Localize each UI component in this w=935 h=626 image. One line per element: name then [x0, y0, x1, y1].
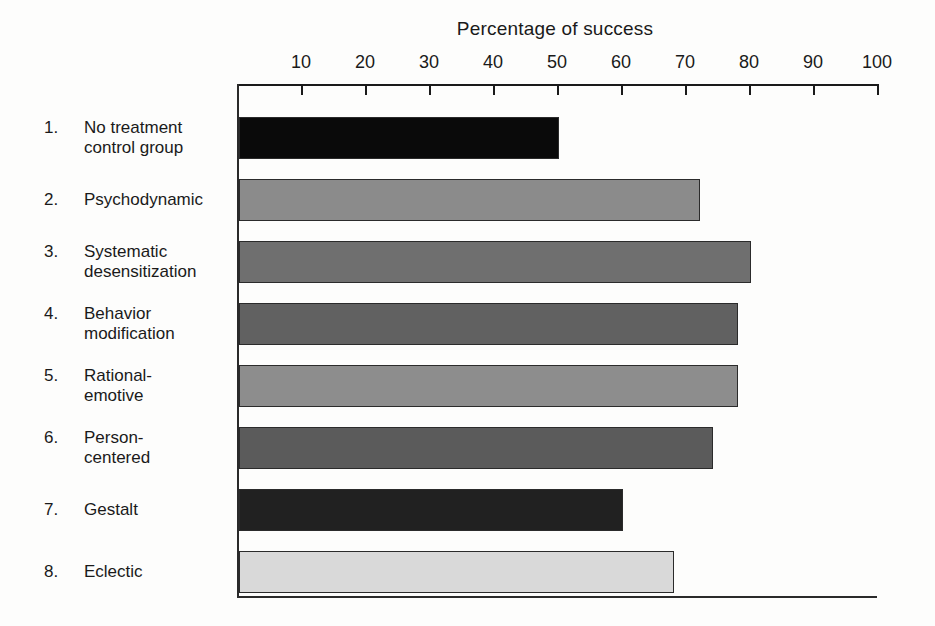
bar-row-label-line1: Rational- [84, 366, 234, 386]
x-axis: 102030405060708090100 [237, 52, 877, 92]
bar-row-label-line2: desensitization [84, 262, 234, 282]
bar-row-index: 2. [44, 190, 72, 210]
bar-row-label: 2.Psychodynamic [44, 190, 234, 210]
x-axis-tick-mark-30 [429, 84, 431, 95]
x-axis-tick-mark-10 [301, 84, 303, 95]
bar-2 [239, 179, 700, 221]
bar-8 [239, 551, 674, 593]
x-axis-tick-mark-20 [365, 84, 367, 95]
bar-3 [239, 241, 751, 283]
bar-1 [239, 117, 559, 159]
x-axis-tick-label-20: 20 [355, 52, 375, 73]
bar-row-label: 4.Behaviormodification [44, 304, 234, 344]
x-axis-tick-label-80: 80 [739, 52, 759, 73]
x-axis-tick-label-70: 70 [675, 52, 695, 73]
chart-title: Percentage of success [400, 18, 710, 40]
x-axis-tick-mark-60 [621, 84, 623, 95]
bar-row-index: 1. [44, 118, 72, 138]
bar-row-label-line1: No treatment [84, 118, 234, 138]
bar-row-label: 8.Eclectic [44, 562, 234, 582]
bar-row: 7.Gestalt [0, 489, 935, 531]
x-axis-tick-label-100: 100 [862, 52, 892, 73]
bar-row: 4.Behaviormodification [0, 303, 935, 345]
bar-row-label-line1: Eclectic [84, 562, 234, 582]
bar-row-label-line2: emotive [84, 386, 234, 406]
bar-row: 2.Psychodynamic [0, 179, 935, 221]
bar-6 [239, 427, 713, 469]
bar-row-label-line2: modification [84, 324, 234, 344]
x-axis-tick-mark-90 [813, 84, 815, 95]
plot-bottom-rule [237, 596, 877, 598]
bar-7 [239, 489, 623, 531]
bar-4 [239, 303, 738, 345]
bar-row-label-line2: control group [84, 138, 234, 158]
bar-row: 3.Systematicdesensitization [0, 241, 935, 283]
x-axis-tick-label-30: 30 [419, 52, 439, 73]
bar-row-label: 3.Systematicdesensitization [44, 242, 234, 282]
bar-row-label: 1.No treatmentcontrol group [44, 118, 234, 158]
bar-row: 8.Eclectic [0, 551, 935, 593]
bar-row-label: 5.Rational-emotive [44, 366, 234, 406]
x-axis-tick-label-40: 40 [483, 52, 503, 73]
bar-row-index: 8. [44, 562, 72, 582]
bar-row-label-line2: centered [84, 448, 234, 468]
bar-chart-figure: Percentage of success 102030405060708090… [0, 0, 935, 626]
bar-row: 5.Rational-emotive [0, 365, 935, 407]
bar-row-index: 3. [44, 242, 72, 262]
bar-row-index: 5. [44, 366, 72, 386]
bar-row-label: 7.Gestalt [44, 500, 234, 520]
bar-row-label-line1: Psychodynamic [84, 190, 234, 210]
bar-5 [239, 365, 738, 407]
bar-row-label-line1: Systematic [84, 242, 234, 262]
x-axis-tick-mark-40 [493, 84, 495, 95]
x-axis-tick-mark-100 [877, 84, 879, 95]
x-axis-tick-label-90: 90 [803, 52, 823, 73]
x-axis-tick-label-50: 50 [547, 52, 567, 73]
bar-row-label: 6.Person-centered [44, 428, 234, 468]
bar-row-label-line1: Gestalt [84, 500, 234, 520]
bar-row-label-line1: Person- [84, 428, 234, 448]
bar-row-index: 4. [44, 304, 72, 324]
bar-row-index: 6. [44, 428, 72, 448]
bar-row: 6.Person-centered [0, 427, 935, 469]
x-axis-tick-label-60: 60 [611, 52, 631, 73]
bar-row: 1.No treatmentcontrol group [0, 117, 935, 159]
x-axis-tick-mark-50 [557, 84, 559, 95]
x-axis-tick-mark-70 [685, 84, 687, 95]
x-axis-tick-mark-80 [749, 84, 751, 95]
bar-row-label-line1: Behavior [84, 304, 234, 324]
x-axis-tick-label-10: 10 [291, 52, 311, 73]
bar-row-index: 7. [44, 500, 72, 520]
